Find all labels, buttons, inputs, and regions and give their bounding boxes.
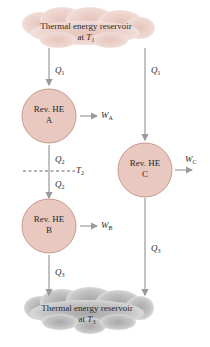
heat-Q1-to-C-label: Q1 — [151, 66, 161, 76]
hot-reservoir-temp: at T1 — [30, 32, 142, 46]
work-C-label: WC — [185, 155, 197, 165]
work-A-label: WA — [101, 111, 113, 121]
heat-Q1-to-A-label: Q1 — [55, 66, 65, 76]
heat-Q2-out-A-label: Q2 — [55, 155, 65, 165]
cold-reservoir-temp: at T3 — [31, 314, 143, 328]
cold-reservoir-label: Thermal energy reservoir at T3 — [31, 303, 143, 328]
engine-C-label: Rev. HE C — [118, 158, 172, 180]
hot-reservoir-title: Thermal energy reservoir — [30, 21, 142, 32]
engine-B-label: Rev. HE B — [22, 214, 76, 236]
intermediate-temperature-label: T2 — [76, 166, 84, 176]
heat-Q3-from-B-label: Q3 — [55, 268, 65, 278]
engine-A-label: Rev. HE A — [22, 104, 76, 126]
diagram-canvas — [0, 0, 210, 347]
heat-Q2-in-B-label: Q2 — [55, 180, 65, 190]
work-B-label: WB — [101, 221, 113, 231]
hot-reservoir-label: Thermal energy reservoir at T1 — [30, 21, 142, 46]
cold-reservoir-title: Thermal energy reservoir — [31, 303, 143, 314]
heat-Q3-from-C-label: Q3 — [151, 244, 161, 254]
